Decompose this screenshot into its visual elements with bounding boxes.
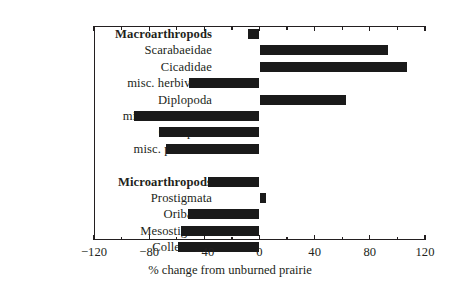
bar-row [94,108,425,124]
bar-row [94,75,425,91]
x-tick-label: −120 [81,245,107,259]
bar [159,127,260,137]
bar-row [94,92,425,108]
bar [178,242,259,252]
bar-row [94,223,425,239]
bar [260,62,408,72]
bar-row [94,26,425,42]
bar [208,177,259,187]
bar-row [94,141,425,157]
x-tick-label: 40 [308,245,321,259]
x-axis-label: % change from unburned prairie [0,263,460,278]
bar [188,209,260,219]
bar [260,45,388,55]
x-tick-label: 0 [256,245,262,259]
bar-rows [94,26,425,240]
bar [189,78,259,88]
bar-row [94,59,425,75]
bar-row [94,190,425,206]
x-tick-label: 80 [364,245,377,259]
bar-row [94,174,425,190]
bar [166,144,260,154]
x-tick-label: −80 [139,245,159,259]
x-tick-label: 120 [416,245,435,259]
bar [260,193,267,203]
bar-row [94,42,425,58]
bar-chart-figure: MacroarthropodsScarabaeidaeCicadidaemisc… [0,0,460,290]
bar [181,226,260,236]
plot-area [94,26,425,240]
bar [260,95,347,105]
bar-row [94,206,425,222]
bar [134,111,260,121]
bar-row [94,124,425,140]
x-tick-label: −40 [194,245,214,259]
bar [248,29,259,39]
